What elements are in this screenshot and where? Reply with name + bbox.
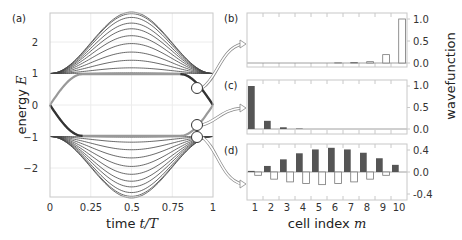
xtick-cell-4: 4: [300, 202, 306, 213]
xtick-cell-1: 1: [252, 202, 258, 213]
panel-c-label: (c): [224, 80, 237, 91]
ytick-c-2: 0.0: [413, 124, 429, 135]
xtick-a-4: 1: [210, 202, 216, 213]
xtick-a-1: 0.25: [80, 202, 102, 213]
xtick-cell-10: 10: [393, 202, 406, 213]
xtick-a-2: 0.5: [124, 202, 140, 213]
state-marker-b: [192, 83, 203, 94]
wavefunction-panels: [247, 13, 410, 200]
ytick-c-0: 1.0: [413, 80, 429, 91]
panel-c-bars: [247, 80, 410, 134]
ytick-d-1: 0.0: [413, 167, 429, 178]
xtick-cell-8: 8: [364, 202, 370, 213]
cell-index-xlabel: cell index m: [288, 216, 367, 231]
panel-b-label: (b): [224, 13, 238, 24]
ytick-c-1: 0.5: [413, 102, 429, 113]
ytick-a-4: −2: [23, 163, 38, 174]
panel-b-bars: [247, 13, 410, 67]
ytick-d-0: 0.4: [413, 145, 429, 156]
xtick-a-3: 0.75: [162, 202, 184, 213]
panel-d-bars: [247, 144, 410, 200]
wavefunction-ylabel: wavefunction: [443, 32, 458, 119]
ytick-a-1: 1: [32, 68, 38, 79]
figure: (a) 2 1 0 −1 −2 0 0.25 0.5 0.75 1 time t…: [0, 0, 462, 240]
ytick-a-0: 2: [32, 37, 38, 48]
state-marker-c: [192, 120, 203, 131]
xtick-cell-3: 3: [284, 202, 290, 213]
state-links: [192, 40, 247, 188]
xtick-cell-6: 6: [332, 202, 338, 213]
ytick-b-1: 0.5: [413, 36, 429, 47]
xtick-cell-2: 2: [268, 202, 274, 213]
xtick-cell-5: 5: [316, 202, 322, 213]
state-marker-d: [192, 132, 203, 143]
panel-a-xlabel: time t/T: [106, 216, 159, 231]
panel-d-label: (d): [224, 145, 238, 156]
panel-a-ylabel: energy E: [14, 75, 29, 134]
panel-a-grid: [50, 13, 213, 197]
ytick-d-2: -0.4: [413, 189, 433, 200]
ytick-b-2: 0.0: [413, 58, 429, 69]
xtick-cell-9: 9: [380, 202, 386, 213]
xtick-cell-7: 7: [348, 202, 354, 213]
bar-xticks: 12345678910: [252, 202, 406, 213]
ytick-a-2: 0: [32, 100, 38, 111]
panel-a-label: (a): [12, 13, 26, 24]
panel-a: (a) 2 1 0 −1 −2 0 0.25 0.5 0.75 1 time t…: [12, 12, 216, 231]
ytick-b-0: 1.0: [413, 14, 429, 25]
xtick-a-0: 0: [47, 202, 53, 213]
